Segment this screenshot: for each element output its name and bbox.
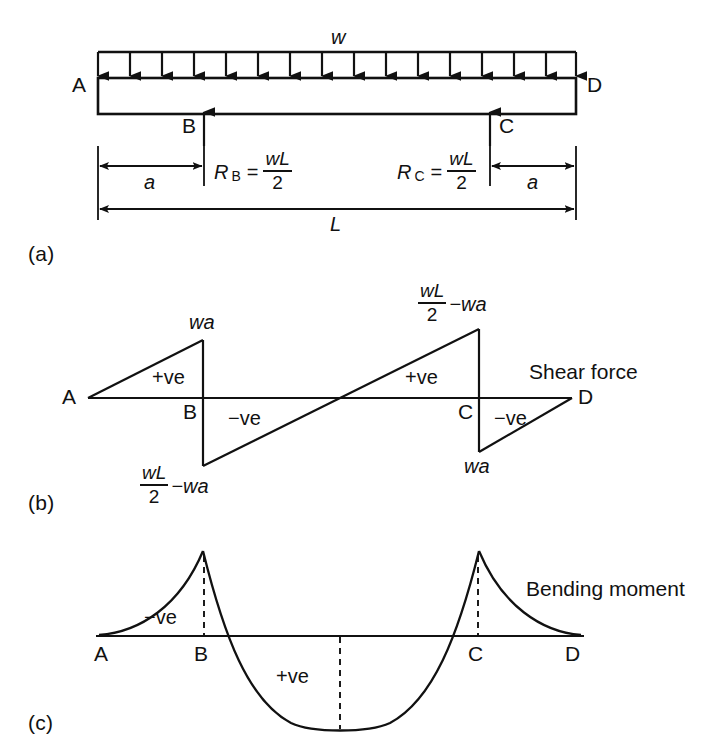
engineering-figure: (a) (b) (c) w A D B C RB = wL 2 RC = wL … [0, 0, 713, 754]
sfd-peak-right-top-value: wL 2 −wa [418, 282, 487, 325]
sfd-node-c: C [458, 401, 473, 422]
bending-moment-diagram [96, 551, 584, 731]
sfd-left-bottom-numerator: wL [140, 463, 168, 483]
bmd-sign-negative: −ve [144, 607, 177, 627]
reaction-b-equals: = [246, 162, 260, 182]
udl-label-w: w [331, 27, 345, 47]
beam-node-a: A [72, 74, 86, 95]
sfd-right-top-denominator: 2 [418, 305, 446, 325]
bmd-node-c: C [468, 643, 483, 664]
sfd-left-bottom-fraction: wL 2 [140, 463, 168, 506]
udl-arrow-group [98, 52, 576, 76]
bmd-node-b: B [194, 643, 208, 664]
dimension-label-L: L [330, 214, 341, 234]
sfd-peak-left-top-value: wa [189, 312, 215, 332]
sfd-sign-positive-right: +ve [405, 367, 438, 387]
reaction-c-equation: RC = wL 2 [397, 150, 476, 193]
reaction-c-denominator: 2 [447, 173, 475, 193]
sfd-sign-positive-left: +ve [152, 367, 185, 387]
sfd-right-top-numerator: wL [418, 281, 446, 301]
reaction-c-numerator: wL [447, 149, 475, 169]
sfd-peak-left-bottom-value: wL 2 −wa [140, 464, 209, 507]
reaction-c-symbol: R [397, 162, 411, 182]
dimension-label-a-left: a [144, 172, 155, 192]
beam-node-c: C [499, 115, 514, 136]
panel-tag-a: (a) [28, 243, 55, 264]
beam-body [98, 78, 576, 114]
shear-force-title: Shear force [529, 361, 638, 382]
panel-tag-b: (b) [28, 492, 55, 513]
reaction-b-denominator: 2 [263, 173, 291, 193]
bmd-node-a: A [94, 643, 108, 664]
beam-node-b: B [182, 115, 196, 136]
sfd-node-d: D [578, 386, 593, 407]
sfd-peak-right-bottom-value: wa [464, 456, 490, 476]
sfd-sign-negative-right: −ve [494, 408, 527, 428]
sfd-sign-negative-left: −ve [228, 408, 261, 428]
reaction-c-fraction: wL 2 [447, 149, 475, 192]
reaction-c-subscript: C [414, 169, 424, 183]
dimension-label-a-right: a [527, 172, 538, 192]
reaction-b-equation: RB = wL 2 [214, 150, 292, 193]
bmd-sign-positive: +ve [276, 666, 309, 686]
reaction-c-equals: = [430, 162, 444, 182]
sfd-left-bottom-tail: −wa [171, 476, 208, 496]
reaction-b-subscript: B [231, 169, 240, 183]
shear-force-diagram [88, 329, 572, 466]
sfd-segment-ab [88, 340, 203, 398]
sfd-node-b: B [183, 401, 197, 422]
bending-moment-title: Bending moment [526, 578, 685, 599]
panel-tag-c: (c) [28, 712, 53, 733]
reaction-b-fraction: wL 2 [263, 149, 291, 192]
sfd-right-top-fraction: wL 2 [418, 281, 446, 324]
bmd-curve-bc-sagging [203, 551, 479, 731]
sfd-right-top-tail: −wa [449, 294, 486, 314]
sfd-node-a: A [62, 386, 76, 407]
beam-node-d: D [587, 74, 602, 95]
reaction-b-numerator: wL [263, 149, 291, 169]
bmd-node-d: D [565, 643, 580, 664]
reaction-b-symbol: R [214, 162, 228, 182]
sfd-left-bottom-denominator: 2 [140, 487, 168, 507]
